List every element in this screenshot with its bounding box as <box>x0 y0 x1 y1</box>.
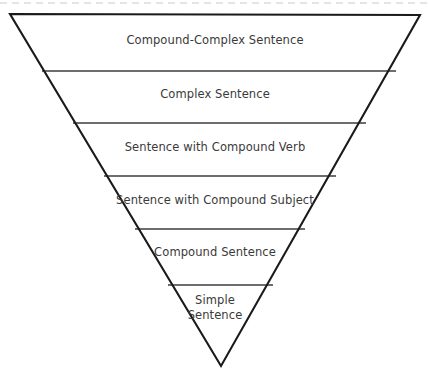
diagram-canvas: Compound-Complex Sentence Complex Senten… <box>0 0 429 375</box>
pyramid-body <box>10 14 420 366</box>
inverted-pyramid-svg <box>0 0 429 375</box>
